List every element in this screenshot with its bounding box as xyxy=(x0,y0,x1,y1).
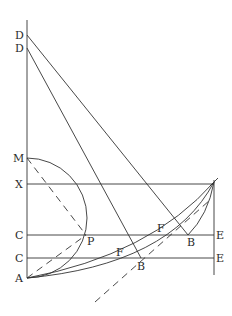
curve-lower-ab xyxy=(27,182,214,278)
label-c-lower: C xyxy=(15,252,23,265)
label-p: P xyxy=(87,235,95,248)
curve-upper-af xyxy=(27,182,214,278)
label-f-lower: F xyxy=(116,246,124,259)
label-e-upper: E xyxy=(216,229,224,242)
dashed-line-m-p xyxy=(27,158,86,235)
line-d2-b2 xyxy=(27,48,141,258)
label-d-top: D xyxy=(15,29,24,42)
label-f-upper: F xyxy=(157,222,165,235)
semicircle xyxy=(27,158,87,278)
label-e-lower: E xyxy=(216,252,224,265)
label-d-lower: D xyxy=(15,42,24,55)
dashed-tangent-line xyxy=(95,200,210,302)
label-m: M xyxy=(13,152,24,165)
line-d1-b1 xyxy=(27,35,188,235)
label-a: A xyxy=(14,272,24,285)
label-x: X xyxy=(15,178,23,191)
curve-segment-b-top xyxy=(188,182,214,235)
label-b-upper: B xyxy=(187,236,195,249)
geometry-diagram: D D M X C C A P F F B B E E xyxy=(0,0,232,316)
label-b-lower: B xyxy=(137,260,145,273)
label-c-upper: C xyxy=(15,229,23,242)
